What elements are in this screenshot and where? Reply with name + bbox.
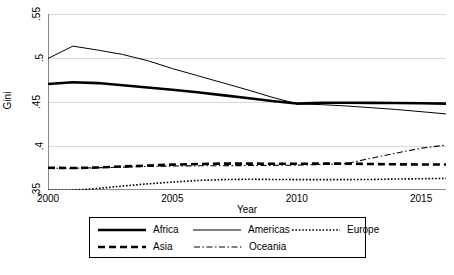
legend-item-africa[interactable]: Africa	[90, 221, 193, 238]
legend-key-oceania-icon	[194, 240, 242, 254]
legend-row: AsiaOceania	[90, 238, 365, 255]
gini-line-chart: Gini .35.4.45.5.55 2000200520102015 Year…	[0, 0, 454, 275]
y-tick-label-text: .45	[31, 95, 43, 109]
y-axis-tick-labels: .35.4.45.5.55	[12, 0, 44, 200]
legend-key-africa-icon	[98, 223, 146, 237]
legend-item-oceania[interactable]: Oceania	[194, 238, 294, 255]
legend-label: Asia	[153, 241, 172, 252]
series-line-europe	[48, 178, 446, 190]
legend-key-americas-icon	[193, 223, 241, 237]
legend-label: Europe	[347, 224, 379, 235]
legend-key-europe-icon	[292, 223, 340, 237]
x-axis-title: Year	[48, 204, 446, 215]
plot-area	[48, 14, 446, 190]
legend-item-asia[interactable]: Asia	[90, 238, 194, 255]
legend-label: Americas	[248, 224, 290, 235]
y-tick-label: .55	[18, 8, 44, 20]
chart-legend: AfricaAmericasEuropeAsiaOceania	[89, 217, 366, 258]
y-tick-label-text: .5	[34, 54, 46, 62]
legend-key-asia-icon	[98, 240, 146, 254]
y-tick-label: .5	[18, 52, 44, 64]
legend-item-americas[interactable]: Americas	[193, 221, 292, 238]
data-series-group	[48, 46, 446, 190]
y-tick-label: .4	[18, 140, 44, 152]
legend-label: Oceania	[249, 241, 286, 252]
series-line-africa	[48, 82, 446, 103]
plot-svg	[48, 14, 446, 190]
legend-label: Africa	[153, 224, 179, 235]
legend-item-europe[interactable]: Europe	[292, 221, 365, 238]
y-tick-label-text: .4	[34, 142, 46, 150]
legend-row: AfricaAmericasEurope	[90, 221, 365, 238]
y-tick-label-text: .55	[31, 7, 43, 21]
y-tick-label: .45	[18, 96, 44, 108]
